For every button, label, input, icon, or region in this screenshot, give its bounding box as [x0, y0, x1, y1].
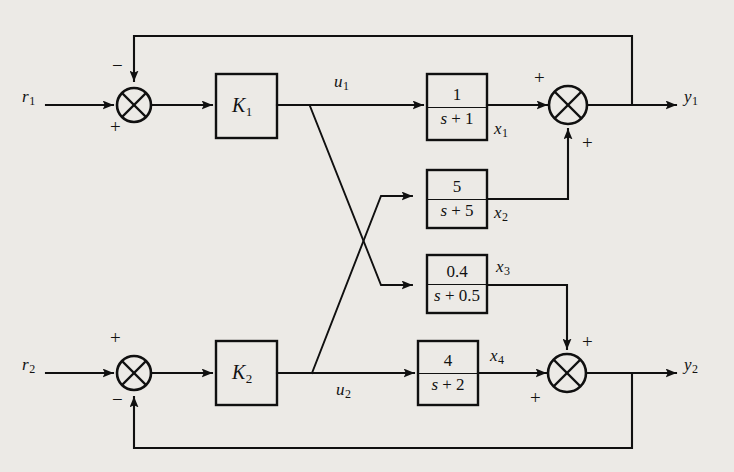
label-signal-x3: x3	[496, 258, 510, 277]
G3-fraction-bar	[427, 284, 487, 285]
transfer-function-G1-text: 1 s + 1	[427, 74, 487, 140]
sign-sum-y1-top-plus: +	[534, 68, 545, 87]
G2-numerator: 5	[448, 178, 467, 197]
G2-denominator: s + 5	[435, 201, 478, 220]
label-signal-x4: x4	[490, 347, 504, 366]
label-signal-u1: u1	[334, 73, 349, 92]
G1-numerator: 1	[448, 86, 467, 105]
transfer-function-G3-text: 0.4 s + 0.5	[427, 255, 487, 313]
sign-sum-r2-feedback-minus: −	[112, 390, 123, 409]
transfer-function-G4-text: 4 s + 2	[418, 341, 478, 405]
wire-x2-to-sum2	[487, 129, 568, 199]
sign-sum-r1-feedback-minus: −	[112, 56, 123, 75]
label-signal-u2: u2	[336, 381, 351, 400]
G1-fraction-bar	[427, 107, 487, 108]
label-signal-x2: x2	[494, 204, 508, 223]
G4-denominator: s + 2	[426, 375, 469, 394]
G2-fraction-bar	[427, 199, 487, 200]
sign-sum-y1-bottom-plus: +	[582, 133, 593, 152]
label-gain-K2: K2	[232, 362, 252, 385]
G3-denominator: s + 0.5	[429, 286, 485, 305]
sign-sum-r1-input-plus: +	[110, 117, 121, 136]
label-input-r2: r2	[22, 356, 35, 375]
sign-sum-r2-input-plus: +	[110, 328, 121, 347]
sign-sum-y2-bottom-plus: +	[530, 388, 541, 407]
label-input-r1: r1	[22, 88, 35, 107]
label-signal-x1: x1	[494, 120, 508, 139]
G4-numerator: 4	[439, 352, 458, 371]
block-diagram-figure: r1 r2 y1 y2 u1 u2 x1 x2 x3 x4 K1 K2	[0, 0, 734, 472]
G4-fraction-bar	[418, 373, 478, 374]
label-gain-K1: K1	[232, 95, 252, 118]
G1-denominator: s + 1	[435, 109, 478, 128]
diagram-canvas	[0, 0, 734, 472]
G3-numerator: 0.4	[441, 263, 472, 282]
label-output-y2: y2	[684, 356, 698, 375]
sign-sum-y2-top-plus: +	[582, 332, 593, 351]
transfer-function-G2-text: 5 s + 5	[427, 170, 487, 228]
label-output-y1: y1	[684, 88, 698, 107]
wire-x3-to-sum4	[487, 285, 567, 349]
